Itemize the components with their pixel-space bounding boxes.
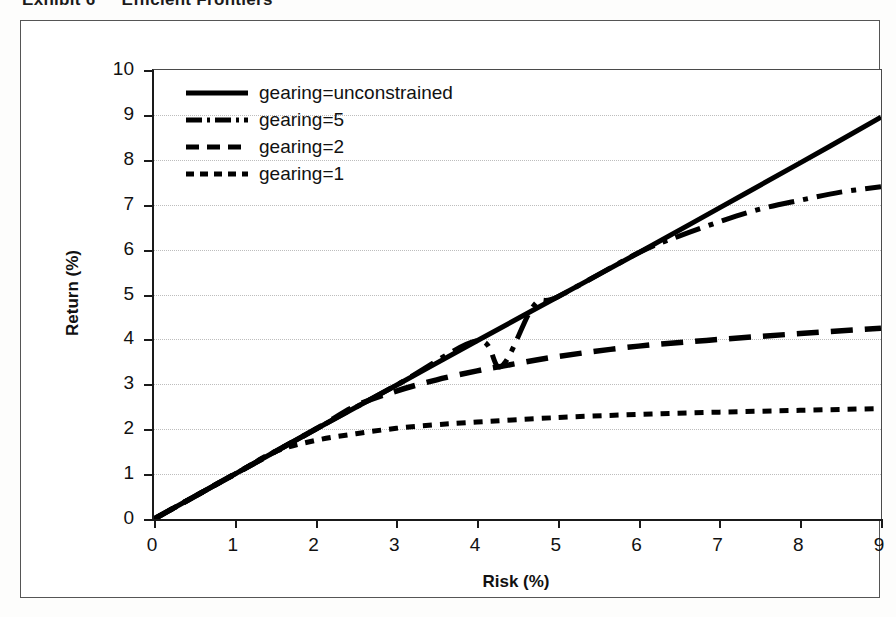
x-tick-label: 0 [132, 534, 172, 556]
x-tick-mark [316, 519, 318, 528]
legend-item-label: gearing=5 [251, 109, 344, 131]
x-tick-label: 7 [697, 534, 737, 556]
legend-item: gearing=5 [183, 106, 513, 133]
figure-page: Exhibit 6Efficient Frontiers Return (%) … [0, 0, 896, 617]
y-tick-label: 3 [94, 372, 134, 394]
x-tick-mark [881, 519, 883, 528]
y-tick-mark [144, 160, 153, 162]
x-axis-label: Risk (%) [482, 572, 549, 592]
exhibit-title-text: Efficient Frontiers [122, 0, 273, 8]
y-axis-label: Return (%) [63, 250, 83, 336]
x-tick-label: 1 [213, 534, 253, 556]
y-tick-label: 5 [94, 283, 134, 305]
y-tick-mark [144, 339, 153, 341]
legend-line-sample [183, 110, 251, 130]
y-tick-label: 4 [94, 327, 134, 349]
x-tick-label: 2 [294, 534, 334, 556]
legend-item-label: gearing=unconstrained [251, 82, 453, 104]
y-tick-label: 1 [94, 462, 134, 484]
y-tick-mark [144, 295, 153, 297]
x-tick-label: 8 [778, 534, 818, 556]
y-tick-mark [144, 115, 153, 117]
exhibit-label: Exhibit 6 [22, 0, 96, 8]
x-tick-mark [154, 519, 156, 528]
y-tick-mark [144, 384, 153, 386]
y-tick-mark [144, 205, 153, 207]
y-tick-label: 9 [94, 103, 134, 125]
y-tick-mark [144, 250, 153, 252]
legend-item-label: gearing=2 [251, 136, 344, 158]
legend-item: gearing=2 [183, 133, 513, 160]
legend-item: gearing=unconstrained [183, 79, 513, 106]
x-tick-mark [719, 519, 721, 528]
series-line-3 [154, 328, 881, 519]
series-line-4 [154, 409, 881, 519]
figure-frame: Return (%) Risk (%) 012345678910 0123456… [20, 20, 880, 598]
legend-item: gearing=1 [183, 160, 513, 187]
legend-line-sample [183, 83, 251, 103]
y-tick-mark [144, 429, 153, 431]
exhibit-caption: Exhibit 6Efficient Frontiers [22, 0, 273, 8]
y-tick-mark [144, 474, 153, 476]
legend-line-sample [183, 137, 251, 157]
x-tick-label: 9 [859, 534, 896, 556]
y-tick-mark [144, 519, 153, 521]
y-tick-label: 6 [94, 238, 134, 260]
x-tick-label: 5 [536, 534, 576, 556]
x-tick-mark [639, 519, 641, 528]
series-line-2 [154, 187, 881, 519]
x-tick-mark [558, 519, 560, 528]
y-tick-mark [144, 70, 153, 72]
legend-item-label: gearing=1 [251, 163, 344, 185]
x-tick-mark [477, 519, 479, 528]
x-tick-mark [235, 519, 237, 528]
x-tick-label: 4 [455, 534, 495, 556]
chart-legend: gearing=unconstrainedgearing=5gearing=2g… [183, 79, 513, 187]
y-tick-label: 2 [94, 417, 134, 439]
y-tick-label: 8 [94, 148, 134, 170]
y-tick-label: 7 [94, 193, 134, 215]
x-tick-label: 3 [374, 534, 414, 556]
x-tick-mark [800, 519, 802, 528]
y-tick-label: 10 [94, 58, 134, 80]
x-tick-label: 6 [617, 534, 657, 556]
y-tick-label: 0 [94, 507, 134, 529]
x-tick-mark [396, 519, 398, 528]
legend-line-sample [183, 164, 251, 184]
